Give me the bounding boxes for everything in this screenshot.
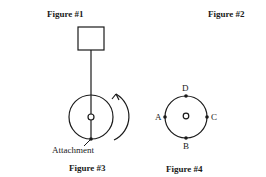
point-b-label: B [183,141,189,151]
hanging-block [78,27,104,50]
figure-4-caption: Figure #4 [166,164,203,174]
point-a [163,115,167,119]
attachment-label: Attachment [52,145,94,155]
rotation-arrow-icon [114,94,129,140]
wheel-axle [88,114,94,120]
diagram-canvas [0,0,266,177]
point-b [184,136,188,140]
point-a-label: A [155,112,162,122]
point-d [184,94,188,98]
orbit-center [183,113,189,119]
figure-2-caption: Figure #2 [208,9,245,19]
figure-1-caption: Figure #1 [47,9,84,19]
point-d-label: D [182,83,189,93]
figure-3-caption: Figure #3 [69,163,106,173]
point-c [205,115,209,119]
point-c-label: C [211,112,217,122]
